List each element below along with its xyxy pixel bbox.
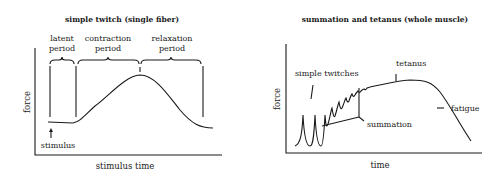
summation-pointer — [359, 117, 364, 121]
latent-period-label-2: period — [49, 44, 75, 53]
summation-label: summation — [367, 120, 412, 129]
right-axes — [286, 44, 482, 153]
simple-twitches-pointer — [311, 85, 313, 99]
stimulus-label: stimulus — [41, 141, 75, 150]
left-panel-title: simple twitch (single fiber) — [65, 15, 179, 24]
latent-period-label-1: latent — [50, 34, 74, 43]
stimulus-arrowhead-icon — [49, 128, 53, 132]
right-panel-title: summation and tetanus (whole muscle) — [302, 15, 468, 24]
fatigue-label: fatigue — [451, 104, 480, 113]
relaxation-period-label-1: relaxation — [152, 34, 193, 43]
summation-tetanus-panel: summation and tetanus (whole muscle) for… — [272, 15, 482, 170]
contraction-period-label-1: contraction — [85, 34, 131, 43]
right-y-axis-label: force — [272, 88, 282, 110]
simple-twitches-label: simple twitches — [295, 69, 359, 78]
left-axes — [35, 48, 222, 155]
twitch-curve — [48, 75, 213, 128]
contraction-period-label-2: period — [95, 44, 121, 53]
latent-brace — [50, 57, 74, 64]
relaxation-brace — [141, 57, 201, 64]
diagram-canvas: simple twitch (single fiber) latent peri… — [0, 0, 498, 183]
left-y-axis-label: force — [22, 91, 32, 113]
left-x-axis-label: stimulus time — [96, 161, 155, 171]
summation-tetanus-curve — [295, 80, 471, 146]
simple-twitch-panel: simple twitch (single fiber) latent peri… — [22, 15, 222, 171]
contraction-brace — [78, 57, 139, 64]
relaxation-period-label-2: period — [159, 44, 185, 53]
summation-lower-line — [322, 117, 359, 126]
right-x-axis-label: time — [370, 160, 389, 170]
tetanus-label: tetanus — [396, 59, 426, 68]
